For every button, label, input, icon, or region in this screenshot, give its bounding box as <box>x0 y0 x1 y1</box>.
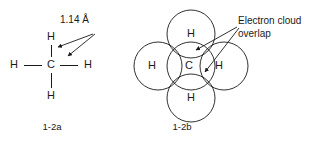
atom-label-h-bottom: H <box>47 89 55 101</box>
cloud-label-h-bottom: H <box>187 91 195 103</box>
atom-label-h-right: H <box>84 58 92 70</box>
cloud-label-h-top: H <box>187 27 195 39</box>
bond-length-arrow-upper <box>58 34 93 47</box>
electron-shell-h-left <box>134 42 182 90</box>
electron-cloud-group: H H C H H Electron cloud overlap 1-2b <box>134 10 301 132</box>
overlap-annotation-line-1: Electron cloud <box>238 15 301 26</box>
caption-1-2a: 1-2a <box>42 121 62 132</box>
lewis-structure-group: H H C H H 1.14 Å 1-2a <box>10 13 95 132</box>
electron-shell-h-right <box>200 42 248 90</box>
atom-label-c-center: C <box>47 58 55 70</box>
cloud-label-c-center: C <box>185 59 193 71</box>
chemistry-figure: H H C H H 1.14 Å 1-2a H H C <box>0 0 317 145</box>
figure-canvas: H H C H H 1.14 Å 1-2a H H C <box>0 0 317 145</box>
cloud-label-h-right: H <box>215 59 223 71</box>
atom-label-h-left: H <box>10 58 18 70</box>
overlap-annotation-line-2: overlap <box>238 28 271 39</box>
bond-length-arrow-lower <box>68 34 95 56</box>
cloud-label-h-left: H <box>148 59 156 71</box>
caption-1-2b: 1-2b <box>172 121 191 132</box>
bond-length-label: 1.14 Å <box>60 13 89 25</box>
atom-label-h-top: H <box>47 30 55 42</box>
